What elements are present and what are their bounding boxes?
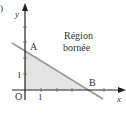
x-axis-arrow-icon xyxy=(118,87,126,93)
point-b-label: B xyxy=(89,77,96,88)
region-label-line1: Région xyxy=(64,30,93,41)
x-tick-label: 1 xyxy=(38,92,43,102)
region-label-line2: bornée xyxy=(63,42,91,53)
x-axis-label: x xyxy=(116,94,121,104)
y-axis-label: y xyxy=(14,9,19,19)
origin-label: O xyxy=(15,91,22,102)
region-diagram: ) y x A B O 1 1 Région bornée xyxy=(0,0,126,113)
y-axis-arrow-icon xyxy=(22,3,28,11)
y-tick-label: 1 xyxy=(17,70,22,80)
corner-mark: ) xyxy=(0,3,3,13)
point-a-label: A xyxy=(30,41,38,52)
